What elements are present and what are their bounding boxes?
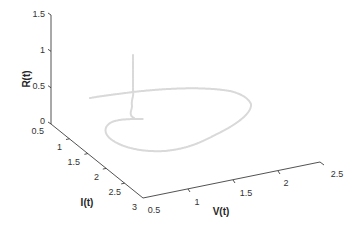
i-tick-label: 3 bbox=[132, 202, 137, 212]
v-axis: 0.5 1 1.5 2 2.5 V(t) bbox=[143, 162, 343, 217]
r-tick-label: 1 bbox=[40, 45, 45, 55]
r-axis-label: R(t) bbox=[21, 70, 32, 87]
v-tick-label: 1 bbox=[194, 197, 199, 207]
i-axis: 0.5 1 1.5 2 2.5 3 I(t) bbox=[31, 124, 143, 212]
i-axis-label: I(t) bbox=[81, 197, 94, 208]
v-tick-label: 0.5 bbox=[148, 205, 161, 215]
i-tick-label: 1 bbox=[57, 142, 62, 152]
r-tick-label: 0.5 bbox=[32, 81, 45, 91]
v-tick-label: 1.5 bbox=[240, 188, 253, 198]
r-tick-label: 0 bbox=[40, 116, 45, 126]
i-tick-label: 1.5 bbox=[67, 157, 80, 167]
v-axis-label: V(t) bbox=[213, 206, 230, 217]
i-tick-label: 0.5 bbox=[31, 126, 44, 136]
r-axis: 0 0.5 1 1.5 R(t) bbox=[21, 9, 51, 126]
v-tick-label: 2.5 bbox=[331, 169, 344, 179]
r-tick-label: 1.5 bbox=[32, 9, 45, 19]
i-tick-label: 2 bbox=[94, 172, 99, 182]
v-tick-label: 2 bbox=[283, 178, 288, 188]
i-tick-label: 2.5 bbox=[108, 187, 121, 197]
trajectory-curve bbox=[90, 55, 251, 151]
chart-canvas: 0 0.5 1 1.5 R(t) 0.5 1 1.5 2 2.5 3 I(t) … bbox=[0, 0, 356, 232]
